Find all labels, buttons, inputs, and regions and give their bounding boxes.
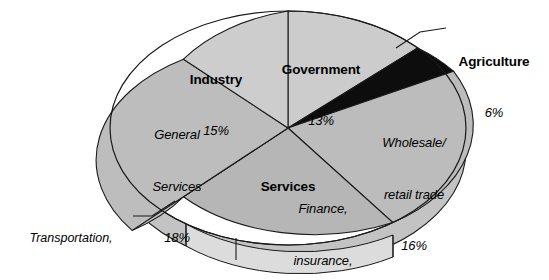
slice-label-government-pct: 13% — [265, 114, 377, 129]
slice-label-transportation-line1: Transportation, — [8, 231, 134, 245]
slice-label-general-services-line1: General — [131, 128, 223, 143]
slice-label-wholesale-line1: Wholesale/ — [362, 136, 466, 151]
slice-label-finance-line2: insurance, — [262, 254, 384, 269]
pie-chart-figure: Industry 15% Government 13% Agriculture … — [0, 0, 549, 280]
slice-label-finance-insurance-real-estate: Finance, insurance, real estate 25% — [262, 166, 384, 280]
slice-label-general-services-line2: Services — [131, 180, 223, 195]
slice-label-finance-line1: Finance, — [262, 202, 384, 217]
slice-label-general-services-pct: 18% — [131, 231, 223, 246]
slice-label-agriculture-name: Agriculture — [443, 54, 545, 69]
slice-label-government-name: Government — [265, 62, 377, 77]
slice-label-transportation-communication-public-utilities: Transportation, Communication, Public ut… — [8, 195, 134, 280]
slice-label-industry-name: Industry — [170, 72, 262, 87]
slice-label-general-services: General Services 18% — [131, 92, 223, 280]
